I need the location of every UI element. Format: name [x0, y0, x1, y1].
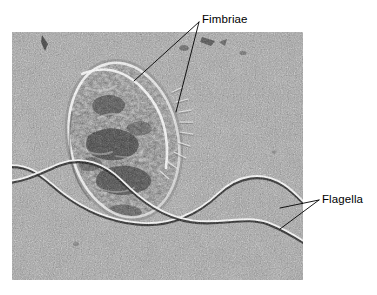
micrograph-grain-overlay	[12, 32, 303, 280]
label-fimbriae: Fimbriae	[202, 13, 248, 25]
micrograph-image	[12, 32, 303, 280]
bacterial-cell-micrograph	[12, 32, 303, 280]
figure-root: Fimbriae Flagella	[0, 0, 377, 295]
label-flagella: Flagella	[322, 193, 363, 205]
